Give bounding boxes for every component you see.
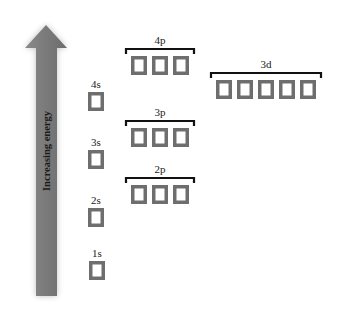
orbital-4s: 4s: [88, 78, 104, 111]
orbital-energy-diagram: Increasing energy 1s2s2p3s3p4s3d4p: [0, 0, 347, 320]
orbital-box: [237, 80, 253, 99]
orbital-box: [173, 128, 189, 147]
orbital-box: [152, 56, 168, 75]
orbital-box: [216, 80, 232, 99]
orbital-box: [152, 185, 168, 204]
orbital-3s: 3s: [88, 136, 104, 169]
orbital-2s: 2s: [88, 194, 104, 227]
orbital-box: [88, 208, 104, 227]
orbital-label: 3p: [155, 106, 167, 118]
orbital-box: [152, 128, 168, 147]
orbital-box: [131, 185, 147, 204]
orbital-label: 2s: [91, 194, 101, 206]
orbital-box: [300, 80, 316, 99]
orbital-3p: 3p: [126, 106, 194, 147]
orbital-label: 2p: [155, 163, 167, 175]
orbital-box: [89, 261, 105, 280]
orbital-box: [279, 80, 295, 99]
orbital-box: [131, 56, 147, 75]
orbital-label: 4s: [91, 78, 101, 90]
bracket-3p: [126, 121, 194, 126]
arrow-label: Increasing energy: [41, 110, 52, 191]
orbital-4p: 4p: [126, 34, 194, 75]
orbital-label: 1s: [92, 247, 102, 259]
orbital-box: [173, 185, 189, 204]
orbital-box: [173, 56, 189, 75]
orbital-label: 3s: [91, 136, 101, 148]
orbital-3d: 3d: [211, 58, 321, 99]
bracket-3d: [211, 73, 321, 78]
orbital-label: 3d: [261, 58, 273, 70]
orbital-2p: 2p: [126, 163, 194, 204]
orbital-box: [88, 150, 104, 169]
orbital-box: [258, 80, 274, 99]
bracket-2p: [126, 178, 194, 183]
orbital-label: 4p: [155, 34, 167, 46]
bracket-4p: [126, 49, 194, 54]
orbital-box: [131, 128, 147, 147]
orbital-levels: 1s2s2p3s3p4s3d4p: [88, 34, 321, 280]
orbital-1s: 1s: [89, 247, 105, 280]
orbital-box: [88, 92, 104, 111]
